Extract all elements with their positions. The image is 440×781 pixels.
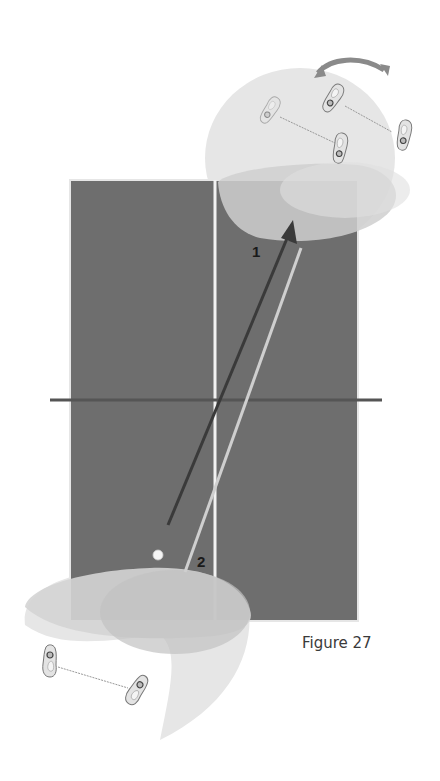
path-2-label: 2 bbox=[197, 553, 205, 570]
stance-line-near bbox=[58, 667, 128, 688]
footprint-icon bbox=[396, 119, 413, 151]
table-tennis-diagram bbox=[0, 0, 440, 781]
figure-caption: Figure 27 bbox=[302, 634, 372, 652]
rotation-arrow-icon bbox=[318, 60, 384, 73]
path-1-label: 1 bbox=[252, 243, 260, 260]
footprint-icon bbox=[43, 645, 56, 677]
footprint-icon bbox=[123, 672, 151, 707]
near-zone-inner bbox=[100, 570, 250, 654]
ball-icon bbox=[153, 550, 163, 560]
far-zone-lobe bbox=[280, 162, 410, 218]
